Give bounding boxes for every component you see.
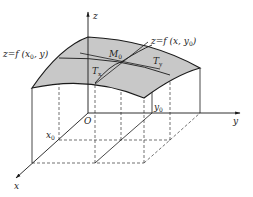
origin-label: O bbox=[84, 116, 92, 126]
y-axis-label: y bbox=[232, 116, 239, 126]
z-axis-label: z bbox=[92, 11, 98, 21]
surface-diagram: z y x O x0 y0 z=f (x0, y) z=f (x, y0) M0… bbox=[0, 0, 253, 197]
x0-label: x0 bbox=[46, 130, 55, 141]
x-axis-label: x bbox=[14, 181, 19, 191]
x-axis bbox=[16, 113, 88, 178]
curve-y0-label: z=f (x, y0) bbox=[150, 36, 197, 47]
y0-label: y0 bbox=[153, 102, 163, 113]
curve-x0-label: z=f (x0, y) bbox=[2, 49, 49, 60]
